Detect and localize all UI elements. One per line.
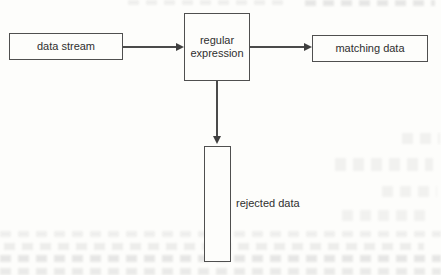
node-matching-data-label: matching data: [335, 42, 404, 55]
arrowhead-right-icon: [176, 43, 184, 51]
page-bleedthrough-artifact: [382, 186, 437, 197]
node-rejected-data-label: rejected data: [236, 197, 300, 210]
scanned-book-page: data stream regular expression matching …: [0, 0, 441, 275]
edge-regex-to-matching-line: [250, 46, 304, 48]
edge-stream-to-regex-line: [123, 46, 177, 48]
node-rejected-data-box: [204, 146, 231, 262]
node-regular-expression: regular expression: [184, 13, 250, 81]
page-bleedthrough-artifact: [402, 133, 440, 144]
node-regular-expression-label: regular expression: [187, 34, 247, 60]
page-bleedthrough-artifact: [128, 0, 288, 5]
node-data-stream-label: data stream: [37, 40, 95, 53]
node-matching-data: matching data: [312, 35, 428, 62]
page-bleedthrough-artifact: [342, 210, 432, 221]
arrowhead-down-icon: [213, 136, 221, 144]
page-bleedthrough-artifact: [0, 268, 441, 275]
page-bleedthrough-artifact: [335, 158, 433, 171]
edge-regex-to-rejected-line: [216, 81, 218, 137]
arrowhead-right-icon: [304, 43, 312, 51]
node-data-stream: data stream: [9, 33, 123, 60]
page-bleedthrough-artifact: [305, 0, 435, 6]
